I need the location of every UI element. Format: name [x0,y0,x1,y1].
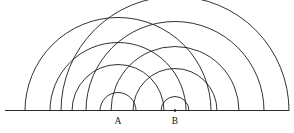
center-dot-group [174,109,177,112]
figure-container: A B [0,0,294,133]
semicircles-diagram: A B [0,0,294,133]
semicircle-arc-a-4 [25,17,211,110]
point-label-b: B [172,116,178,126]
arc-group-b [61,0,289,110]
semicircle-arc-a-1 [100,93,136,111]
center-dot-b [174,109,177,112]
semicircle-arc-b-2 [133,69,217,111]
point-label-a: A [115,116,122,126]
semicircle-arc-b-5 [61,0,289,110]
semicircle-arc-b-3 [111,47,239,111]
arc-group-a [25,17,211,110]
semicircle-arc-a-2 [72,65,164,111]
